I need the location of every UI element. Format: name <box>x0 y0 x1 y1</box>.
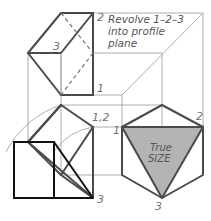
label-top-3: 3 <box>53 40 60 53</box>
label-top-2: 2 <box>97 11 104 24</box>
label-side-3: 3 <box>155 200 162 213</box>
label-top-1: 1 <box>97 82 104 95</box>
annotation-line-1: Revolve 1–2–3 <box>108 13 184 25</box>
label-front-3: 3 <box>97 193 104 206</box>
label-front-12: 1,2 <box>92 111 110 124</box>
label-side-2: 2 <box>196 110 203 123</box>
true-size-line-2: SIZE <box>148 153 171 164</box>
true-size-line-1: True <box>150 142 172 153</box>
top-view <box>28 13 93 95</box>
annotation-line-2: into profile <box>108 25 165 37</box>
label-side-1: 1 <box>113 124 120 137</box>
annotation-line-3: plane <box>107 37 137 49</box>
true-size-label: True SIZE <box>148 142 172 164</box>
orthographic-revolution-diagram: 2 3 1 1,2 3 1 2 3 Revolve 1–2–3 into pro… <box>0 0 211 221</box>
